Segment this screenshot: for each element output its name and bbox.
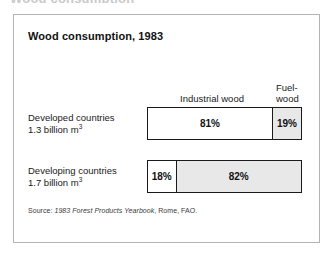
source-suffix: , Rome, FAO. [154, 207, 197, 214]
cubic-superscript: 3 [79, 176, 83, 183]
bar-segment-industrial-wood: 18% [148, 161, 176, 192]
bar-segment-fuelwood: 82% [176, 161, 301, 192]
column-header-fuelwood-line1: Fuel- [276, 82, 306, 93]
source-publication-title: 1983 Forest Products Yearbook [54, 207, 154, 214]
bar-segment-industrial-wood: 81% [148, 108, 272, 139]
row-label-line1: Developed countries [28, 112, 115, 124]
source-note: Source: 1983 Forest Products Yearbook, R… [28, 207, 197, 214]
row-volume-value: 1.7 billion m [28, 177, 79, 188]
bar-developing-countries: 18% 82% [147, 160, 302, 193]
source-prefix: Source: [28, 207, 52, 214]
column-header-industrial-wood: Industrial wood [147, 93, 277, 104]
row-label-developed-countries: Developed countries 1.3 billion m3 [28, 112, 115, 136]
row-volume-value: 1.3 billion m [28, 124, 79, 135]
clipped-top-text: Wood consumption [10, 0, 190, 3]
row-label-line2: 1.7 billion m3 [28, 177, 117, 189]
row-label-line2: 1.3 billion m3 [28, 124, 115, 136]
figure-frame: Wood consumption, 1983 Industrial wood F… [13, 14, 320, 243]
page-title: Wood consumption, 1983 [28, 30, 163, 42]
bar-developed-countries: 81% 19% [147, 107, 302, 140]
column-header-fuelwood: Fuel- wood [276, 82, 306, 104]
row-label-line1: Developing countries [28, 165, 117, 177]
row-label-developing-countries: Developing countries 1.7 billion m3 [28, 165, 117, 189]
cubic-superscript: 3 [79, 123, 83, 130]
column-header-fuelwood-line2: wood [276, 93, 306, 104]
bar-segment-fuelwood: 19% [272, 108, 301, 139]
